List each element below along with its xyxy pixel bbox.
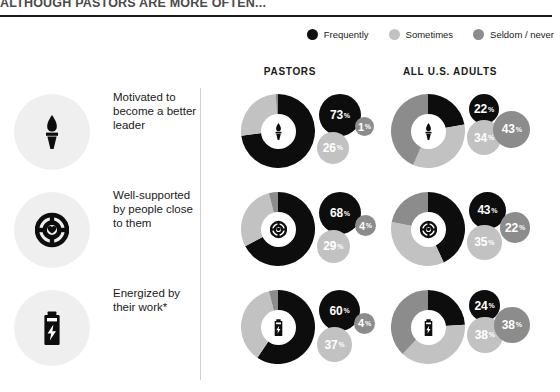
row-icon-container [14,192,90,268]
percent-symbol: % [339,341,345,348]
donut-center [261,114,296,149]
bubble-value: 73 [330,108,343,122]
donut-group-adults: 43%35%22% [391,186,479,278]
percent-symbol: % [519,224,525,231]
bubble-value: 26 [323,141,336,155]
percent-symbol: % [488,239,494,246]
bubble-value: 1 [358,121,364,133]
lifebuoy-heart-icon [35,211,69,249]
percent-symbol: % [366,222,372,229]
percent-symbol: % [516,126,522,133]
donut-group-pastors: 68%29%4% [241,186,329,278]
legend-item-seldom_never: Seldom / never [473,29,554,40]
battery-bolt-icon [270,318,287,337]
chart-legend: FrequentlySometimesSeldom / never [307,29,554,40]
donut-center [261,212,296,247]
donut-center [411,212,446,247]
title-divider [0,15,552,17]
value-bubble: 22% [500,212,530,242]
legend-swatch-icon [473,29,484,40]
percent-symbol: % [365,123,371,130]
percent-symbol: % [489,331,495,338]
legend-item-sometimes: Sometimes [389,29,454,40]
percent-symbol: % [365,320,371,327]
bubble-value: 43 [477,203,490,217]
legend-item-frequently: Frequently [307,29,369,40]
percent-symbol: % [337,243,343,250]
torch-icon [35,113,69,151]
percent-symbol: % [344,210,350,217]
value-bubble: 38% [494,307,530,343]
value-bubble: 29% [317,230,350,263]
bubble-value: 38 [475,328,488,342]
row-label: Well-supported by people close to them [113,188,197,231]
legend-swatch-icon [307,29,318,40]
donut-group-adults: 22%34%43% [391,88,479,180]
bubble-value: 60 [329,304,342,318]
bubble-value: 24 [474,299,487,313]
torch-icon [420,122,437,141]
bubble-value: 29 [323,239,336,253]
percent-symbol: % [516,321,522,328]
battery-bolt-icon [35,309,69,347]
donut-group-adults: 24%38%38% [391,284,479,376]
row-label: Motivated to become a better leader [113,90,197,133]
value-bubble: 4% [355,215,376,236]
row-icon-container [14,290,90,366]
percent-symbol: % [491,207,497,214]
row-label: Energized by their work* [113,286,197,314]
bubble-value: 22 [474,102,487,116]
bubble-value: 22 [505,221,518,235]
bubble-value: 43 [502,122,515,136]
legend-label: Sometimes [406,29,454,40]
column-header-pastors: PASTORS [235,66,345,77]
bubble-value: 38 [502,318,515,332]
percent-symbol: % [344,112,350,119]
percent-symbol: % [337,144,343,151]
data-row: Energized by their work*60%37%4%24%38%38… [0,284,560,380]
donut-center [411,114,446,149]
value-bubble: 1% [355,117,374,136]
battery-bolt-icon [420,318,437,337]
lifebuoy-heart-icon [420,220,437,239]
bubble-value: 68 [330,206,343,220]
data-row: Well-supported by people close to them68… [0,186,560,282]
value-bubble: 37% [317,327,352,362]
value-bubble: 4% [354,313,375,334]
donut-group-pastors: 60%37%4% [241,284,329,376]
data-row: Motivated to become a better leader73%26… [0,88,560,184]
donut-center [411,310,446,345]
value-bubble: 35% [467,225,502,260]
percent-symbol: % [488,302,494,309]
legend-swatch-icon [389,29,400,40]
row-icon-container [14,94,90,170]
percent-symbol: % [488,106,494,113]
legend-label: Frequently [324,29,369,40]
torch-icon [270,122,287,141]
donut-group-pastors: 73%26%1% [241,88,329,180]
bubble-value: 37 [325,338,338,352]
bubble-value: 4 [359,220,365,232]
bubble-value: 35 [474,235,487,249]
bubble-value: 34 [474,131,487,145]
page-title: ALTHOUGH PASTORS ARE MORE OFTEN... [0,0,266,10]
donut-center [261,310,296,345]
lifebuoy-heart-icon [270,220,287,239]
bubble-value: 4 [358,317,364,329]
legend-label: Seldom / never [490,29,554,40]
value-bubble: 43% [493,111,530,148]
value-bubble: 26% [317,132,349,164]
column-header-adults: ALL U.S. ADULTS [385,66,515,77]
percent-symbol: % [343,307,349,314]
